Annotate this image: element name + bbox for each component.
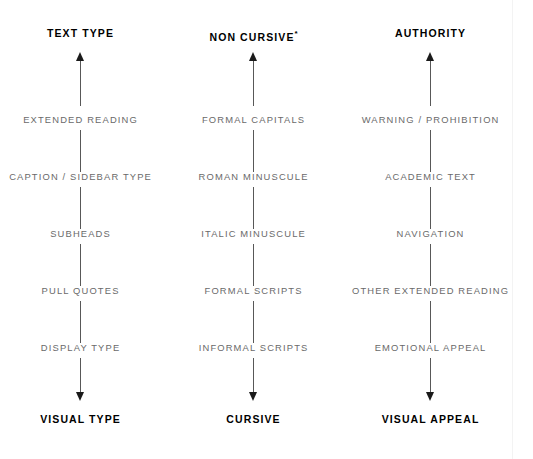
node-label-warning-prohibition: WARNING / PROHIBITION <box>320 114 533 125</box>
axis-segment <box>253 130 254 172</box>
arrow-down-icon <box>426 392 434 401</box>
arrow-up-icon <box>249 52 257 61</box>
axis-segment <box>253 61 254 106</box>
arrow-up-icon <box>426 52 434 61</box>
column-bottom-label: VISUAL APPEAL <box>320 414 533 425</box>
column-top-label-text: NON CURSIVE <box>209 31 294 43</box>
axis-segment <box>80 187 81 229</box>
axis-segment <box>430 130 431 172</box>
axis-segment <box>253 301 254 343</box>
arrow-down-icon <box>76 392 84 401</box>
axis-segment <box>80 244 81 286</box>
page-edge-rule <box>512 0 513 459</box>
arrow-up-icon <box>76 52 84 61</box>
typography-continuum-diagram: TEXT TYPE EXTENDED READING CAPTION / SID… <box>0 0 533 459</box>
axis-segment <box>253 187 254 229</box>
node-label-other-extended-reading: OTHER EXTENDED READING <box>320 285 533 296</box>
axis-segment <box>253 358 254 395</box>
axis-segment <box>430 301 431 343</box>
axis-segment <box>253 244 254 286</box>
node-label-academic-text: ACADEMIC TEXT <box>320 171 533 182</box>
axis-segment <box>430 187 431 229</box>
axis-column-authority: AUTHORITY WARNING / PROHIBITION ACADEMIC… <box>320 0 533 459</box>
axis-segment <box>80 301 81 343</box>
axis-segment <box>430 61 431 106</box>
column-top-label: AUTHORITY <box>320 28 533 39</box>
axis-segment <box>80 130 81 172</box>
axis-segment <box>80 61 81 106</box>
axis-segment <box>430 358 431 395</box>
node-label-navigation: NAVIGATION <box>320 228 533 239</box>
footnote-marker: * <box>295 29 298 38</box>
arrow-down-icon <box>249 392 257 401</box>
node-label-emotional-appeal: EMOTIONAL APPEAL <box>320 342 533 353</box>
axis-segment <box>430 244 431 286</box>
axis-segment <box>80 358 81 395</box>
